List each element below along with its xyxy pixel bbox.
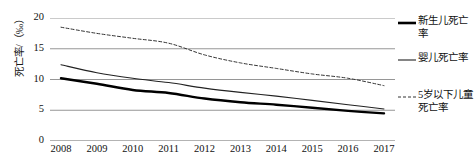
x-tick-label: 2009 xyxy=(80,143,114,154)
legend-item-under5[interactable]: 5岁以下儿童死亡率 xyxy=(398,88,476,116)
plot-area xyxy=(50,18,395,141)
series-line-2 xyxy=(61,27,384,85)
legend-label-neonatal: 新生儿死亡率 xyxy=(418,14,476,40)
legend-item-infant[interactable]: 婴儿死亡率 xyxy=(398,51,476,79)
x-tick-label: 2012 xyxy=(188,143,222,154)
x-tick-label: 2013 xyxy=(223,143,257,154)
y-tick-label: 5 xyxy=(22,104,44,114)
legend-label-under5: 5岁以下儿童死亡率 xyxy=(418,88,476,114)
y-tick-label: 15 xyxy=(22,43,44,53)
legend-item-neonatal[interactable]: 新生儿死亡率 xyxy=(398,14,476,42)
mortality-rate-line-chart: 死亡率/（‰） 05101520 20082009201020112012201… xyxy=(0,0,476,161)
series-line-0 xyxy=(61,78,384,113)
y-tick-label: 20 xyxy=(22,12,44,22)
x-tick-label: 2008 xyxy=(44,143,78,154)
gridlines xyxy=(50,18,395,141)
x-tick-label: 2014 xyxy=(259,143,293,154)
series-lines xyxy=(61,27,384,113)
x-tick-label: 2010 xyxy=(116,143,150,154)
x-tick-label: 2017 xyxy=(367,143,401,154)
x-tick-label: 2011 xyxy=(152,143,186,154)
x-tick-label: 2015 xyxy=(295,143,329,154)
x-tick-label: 2016 xyxy=(331,143,365,154)
y-tick-label: 10 xyxy=(22,74,44,84)
chart-legend: 新生儿死亡率 婴儿死亡率 5岁以下儿童死亡率 xyxy=(398,14,476,125)
legend-label-infant: 婴儿死亡率 xyxy=(418,51,476,64)
plot-svg xyxy=(50,18,395,141)
x-axis-tick-labels: 2008200920102011201220132014201520162017 xyxy=(0,143,476,159)
y-axis-tick-labels: 05101520 xyxy=(22,0,44,161)
